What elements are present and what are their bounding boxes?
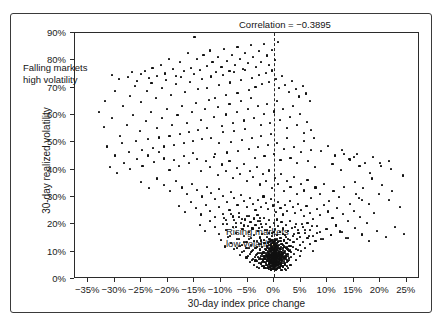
data-point [341, 149, 343, 151]
data-point [279, 266, 281, 268]
data-point [236, 46, 238, 48]
data-point [259, 220, 261, 222]
data-point [294, 226, 296, 228]
data-point [255, 66, 257, 68]
data-point [299, 244, 301, 246]
data-point [247, 255, 249, 257]
data-point [283, 190, 285, 192]
data-point [292, 241, 294, 243]
data-point [274, 59, 276, 61]
data-point [168, 135, 170, 137]
data-point [261, 83, 263, 85]
data-point [280, 173, 282, 175]
data-point [254, 209, 256, 211]
data-point [121, 142, 123, 144]
y-tick-label: 0% [26, 273, 66, 284]
data-point [193, 36, 195, 38]
x-axis-tick [353, 278, 354, 282]
data-point [147, 154, 149, 156]
data-point [257, 199, 259, 201]
data-point [147, 138, 149, 140]
data-point [292, 246, 294, 248]
data-point [263, 113, 265, 115]
data-point [225, 94, 227, 96]
data-point [236, 111, 238, 113]
data-point [331, 217, 333, 219]
data-point [300, 250, 302, 252]
data-point [176, 114, 178, 116]
data-point [364, 162, 366, 164]
x-axis-tick [140, 278, 141, 282]
data-point [283, 260, 285, 262]
data-point [309, 100, 311, 102]
data-point [208, 99, 210, 101]
data-point [310, 149, 312, 151]
data-point [200, 170, 202, 172]
data-point [314, 186, 316, 188]
data-point [209, 166, 211, 168]
data-point [136, 80, 138, 82]
data-point [114, 90, 116, 92]
data-point [349, 159, 351, 161]
data-point [243, 119, 245, 121]
data-point [307, 160, 309, 162]
data-point [217, 174, 219, 176]
data-point [200, 119, 202, 121]
data-point [335, 224, 337, 226]
data-point [228, 103, 230, 105]
data-point [190, 201, 192, 203]
data-point [199, 69, 201, 71]
data-point [250, 97, 252, 99]
x-tick-label: 25% [396, 284, 415, 295]
data-point [284, 84, 286, 86]
data-point [184, 91, 186, 93]
data-point [187, 52, 189, 54]
data-point [361, 233, 363, 235]
x-axis-title: 30-day index price change [74, 298, 419, 309]
data-point [289, 239, 291, 241]
data-point [299, 236, 301, 238]
data-point [131, 71, 133, 73]
data-point [306, 237, 308, 239]
data-point [201, 138, 203, 140]
data-point [258, 74, 260, 76]
data-point [222, 131, 224, 133]
data-point [378, 193, 380, 195]
data-point [263, 43, 265, 45]
y-axis-tick [70, 141, 74, 142]
data-point [145, 120, 147, 122]
data-point [140, 101, 142, 103]
data-point [223, 217, 225, 219]
data-point [246, 180, 248, 182]
data-point [164, 72, 166, 74]
data-point [282, 213, 284, 215]
data-point [226, 223, 228, 225]
data-point [152, 147, 154, 149]
data-point [302, 226, 304, 228]
data-point [272, 204, 274, 206]
data-point [294, 212, 296, 214]
rising-markets-line1: Rising markets [226, 226, 289, 238]
data-point [226, 60, 228, 62]
data-point [394, 226, 396, 228]
data-point [250, 44, 252, 46]
y-axis-tick [70, 87, 74, 88]
data-point [369, 172, 371, 174]
data-point [244, 128, 246, 130]
data-point [275, 78, 277, 80]
data-point [313, 137, 315, 139]
data-point [304, 232, 306, 234]
data-point [277, 41, 279, 43]
data-point [197, 129, 199, 131]
data-point [200, 213, 202, 215]
data-point [342, 213, 344, 215]
data-point [140, 181, 142, 183]
correlation-annotation: Correlation = −0.3895 [239, 19, 331, 30]
x-axis-tick [114, 278, 115, 282]
data-point [230, 191, 232, 193]
data-point [221, 163, 223, 165]
data-point [343, 186, 345, 188]
data-point [222, 74, 224, 76]
y-axis-tick [70, 196, 74, 197]
data-point [289, 116, 291, 118]
